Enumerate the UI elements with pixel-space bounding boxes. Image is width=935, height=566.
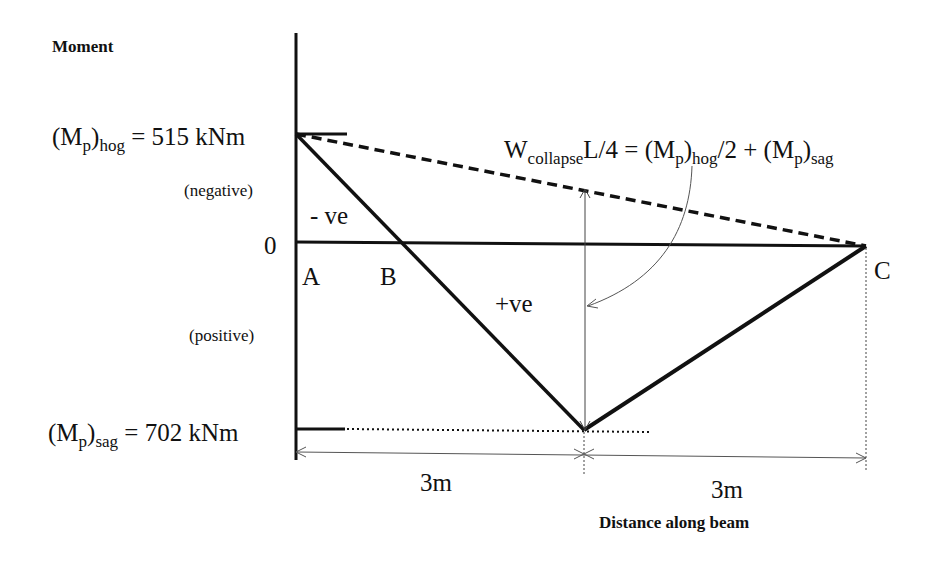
dim-arrow-mid-right-icon: [584, 449, 594, 459]
pointer-arrowhead-icon: [587, 299, 598, 308]
zero-label: 0: [264, 233, 277, 258]
zero-baseline: [296, 242, 866, 246]
bending-moment-diagram: [0, 0, 935, 566]
y-axis-label: Moment: [52, 38, 113, 55]
negative-label: (negative): [184, 182, 253, 199]
dim-arrow-mid-left-icon: [574, 449, 584, 459]
sag-moment-label: (Mp)sag = 702 kNm: [48, 420, 238, 445]
sag-level-dotted: [347, 429, 650, 432]
span2-dimension-label: 3m: [711, 477, 743, 502]
formula-pointer-arrow: [588, 166, 692, 306]
moment-line-c: [584, 246, 866, 430]
point-c-label: C: [874, 258, 891, 283]
point-a-label: A: [302, 264, 320, 289]
positive-region-label: +ve: [495, 291, 533, 316]
hog-moment-label: (Mp)hog = 515 kNm: [52, 124, 245, 149]
x-axis-label: Distance along beam: [599, 514, 749, 531]
positive-label: (positive): [189, 327, 254, 344]
negative-region-label: - ve: [310, 203, 348, 228]
point-b-label: B: [380, 264, 397, 289]
span1-dimension-label: 3m: [420, 470, 452, 495]
collapse-formula: WcollapseL/4 = (Mp)hog/2 + (Mp)sag: [504, 137, 834, 162]
moment-line-ab: [296, 134, 584, 430]
